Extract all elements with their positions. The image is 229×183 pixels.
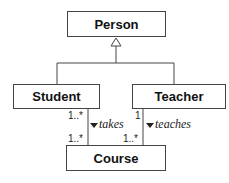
class-person: Person: [67, 11, 166, 37]
direction-arrow-icon: [90, 123, 98, 128]
teacher-course-multiplicity: 1..*: [123, 134, 138, 144]
inheritance-triangle-icon: [111, 38, 121, 46]
student-multiplicity: 1..*: [68, 111, 83, 121]
teacher-multiplicity: 1: [135, 111, 141, 121]
class-person-label: Person: [94, 17, 138, 32]
uml-class-diagram: Person Student Teacher Course 1..* 1..* …: [0, 0, 229, 183]
class-student-label: Student: [32, 89, 80, 104]
takes-label: takes: [90, 118, 124, 130]
teaches-label: teaches: [146, 118, 191, 130]
class-teacher-label: Teacher: [155, 89, 204, 104]
student-course-multiplicity: 1..*: [68, 134, 83, 144]
class-teacher: Teacher: [132, 84, 226, 109]
direction-arrow-icon: [146, 123, 154, 128]
class-course-label: Course: [94, 151, 139, 166]
class-student: Student: [13, 84, 100, 109]
class-course: Course: [66, 145, 166, 171]
